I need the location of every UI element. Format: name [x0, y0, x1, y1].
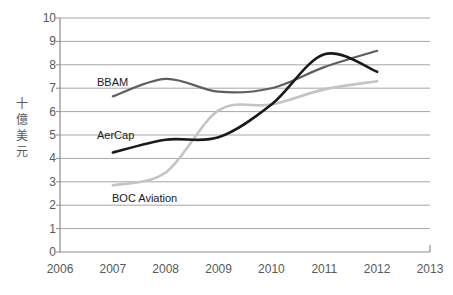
series-line-aercap: [113, 53, 377, 152]
plot-canvas: [0, 0, 453, 295]
series-label-aercap: AerCap: [97, 129, 134, 141]
line-chart: 十 億 美 元 10 9 8 7 6 5 4 3 2 1 0 2006 2007…: [0, 0, 453, 295]
series-label-bbam: BBAM: [97, 76, 128, 88]
series-label-boc-aviation: BOC Aviation: [112, 192, 177, 204]
series-line-boc-aviation: [113, 81, 377, 185]
series-lines: [113, 51, 377, 186]
series-line-bbam: [113, 51, 377, 97]
